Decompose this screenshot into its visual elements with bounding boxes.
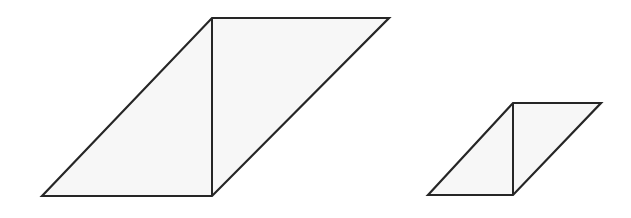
figure-canvas: [0, 0, 631, 218]
small-parallelogram: [428, 103, 601, 195]
large-parallelogram: [42, 18, 389, 196]
geometry-figure-svg: [0, 0, 631, 218]
